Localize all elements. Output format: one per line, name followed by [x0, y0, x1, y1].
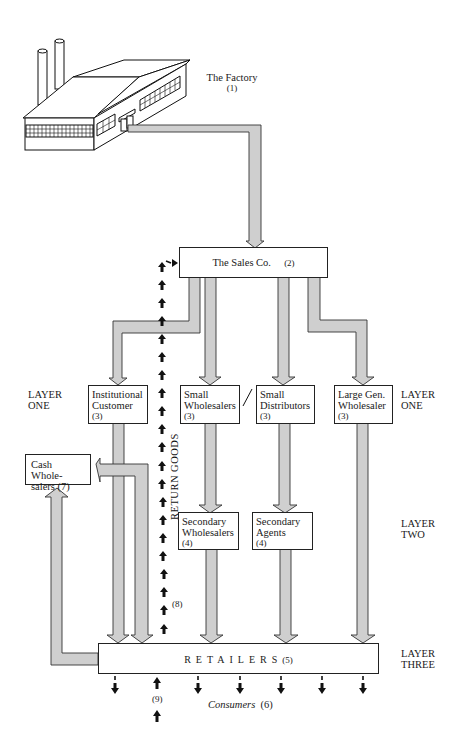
- institutional-customer-box: Institutional Customer (3): [88, 385, 148, 424]
- layer-three-line2: THREE: [401, 659, 435, 670]
- layer-one-right-line2: ONE: [401, 400, 435, 411]
- large-wholesaler-num: (3): [338, 411, 389, 422]
- sales-co-box: The Sales Co. (2): [179, 247, 328, 278]
- factory-num: (1): [200, 83, 264, 94]
- secondary-wholesalers-num: (4): [182, 538, 235, 549]
- small-distributors-box: Small Distributors (3): [256, 385, 315, 424]
- small-wholesalers-box: Small Wholesalers (3): [180, 385, 240, 424]
- retailers-box: RETAILERS(5): [98, 643, 379, 674]
- factory-title: The Factory: [200, 72, 264, 83]
- secondary-agents-num: (4): [256, 538, 309, 549]
- layer-three-line1: LAYER: [401, 648, 435, 659]
- layer-two-line2: TWO: [401, 529, 435, 540]
- secondary-wholesalers-line2: Wholesalers: [182, 527, 235, 538]
- diagram-canvas: [0, 0, 457, 752]
- secondary-wholesalers-line1: Secondary: [182, 516, 235, 527]
- small-distributors-line2: Distributors: [260, 400, 311, 411]
- layer-one-left-line2: ONE: [28, 400, 62, 411]
- secondary-agents-box: Secondary Agents (4): [252, 512, 313, 550]
- consumers-text: Consumers: [208, 699, 255, 710]
- small-distributors-line1: Small: [260, 389, 311, 400]
- return-goods-label: RETURN GOODS: [169, 433, 180, 520]
- institutional-num: (3): [92, 411, 144, 422]
- small-wholesalers-line2: Wholesalers: [184, 400, 236, 411]
- small-wholesalers-line1: Small: [184, 389, 236, 400]
- secondary-agents-line2: Agents: [256, 527, 309, 538]
- cash-wholesalers-line1: Cash Whole-: [31, 459, 85, 481]
- small-distributors-num: (3): [260, 411, 311, 422]
- large-wholesaler-line2: Wholesaler: [338, 400, 389, 411]
- retailers-label: RETAILERS: [184, 654, 282, 665]
- divider-slash: [243, 389, 252, 406]
- layer-two-label: LAYER TWO: [401, 518, 435, 540]
- factory-icon: [23, 39, 190, 150]
- large-gen-wholesaler-box: Large Gen. Wholesaler (3): [334, 385, 393, 424]
- institutional-line2: Customer: [92, 400, 144, 411]
- large-wholesaler-line1: Large Gen.: [338, 389, 389, 400]
- secondary-agents-line1: Secondary: [256, 516, 309, 527]
- small-wholesalers-num: (3): [184, 411, 236, 422]
- cash-wholesalers-line2: salers (7): [31, 481, 85, 492]
- cash-wholesalers-box: Cash Whole- salers (7): [25, 454, 91, 485]
- sales-co-num: (2): [284, 258, 295, 268]
- layer-one-right-label: LAYER ONE: [401, 389, 435, 411]
- consumers-num: (6): [261, 699, 273, 710]
- institutional-line1: Institutional: [92, 389, 144, 400]
- consumers-label: Consumers (6): [208, 699, 273, 710]
- retailers-num: (5): [282, 655, 293, 665]
- layer-one-left-line1: LAYER: [28, 389, 62, 400]
- consumer-return-num: (9): [152, 694, 163, 705]
- sales-co-label: The Sales Co.: [212, 257, 271, 268]
- factory-label: The Factory (1): [200, 72, 264, 94]
- layer-two-line1: LAYER: [401, 518, 435, 529]
- layer-one-right-line1: LAYER: [401, 389, 435, 400]
- secondary-wholesalers-box: Secondary Wholesalers (4): [178, 512, 239, 550]
- return-goods-num: (8): [172, 599, 183, 610]
- layer-three-label: LAYER THREE: [401, 648, 435, 670]
- layer-one-left-label: LAYER ONE: [28, 389, 62, 411]
